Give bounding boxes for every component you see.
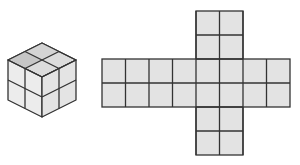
diagram-canvas: [0, 0, 300, 165]
cube-figure: [8, 43, 76, 117]
cube-net: [102, 11, 290, 155]
